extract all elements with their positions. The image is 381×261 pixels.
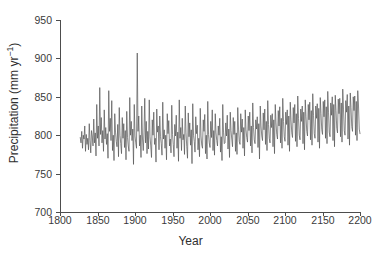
- y-tick-850: [56, 97, 61, 98]
- y-axis-line: [60, 20, 61, 212]
- precipitation-time-series-figure: 700750800850900950 180018501900195020002…: [0, 0, 381, 261]
- y-tick-900: [56, 58, 61, 59]
- y-axis-title-text: Precipitation (mm yr: [7, 57, 21, 164]
- y-axis-title: Precipitation (mm yr−1): [7, 3, 21, 203]
- y-axis-title-exponent: −1: [5, 47, 15, 57]
- y-axis-title-suffix: ): [7, 43, 21, 47]
- y-tick-800: [56, 135, 61, 136]
- y-tick-950: [56, 20, 61, 21]
- x-axis-title: Year: [0, 234, 381, 248]
- y-tick-750: [56, 174, 61, 175]
- x-tick-label-2200: 2200: [330, 215, 381, 226]
